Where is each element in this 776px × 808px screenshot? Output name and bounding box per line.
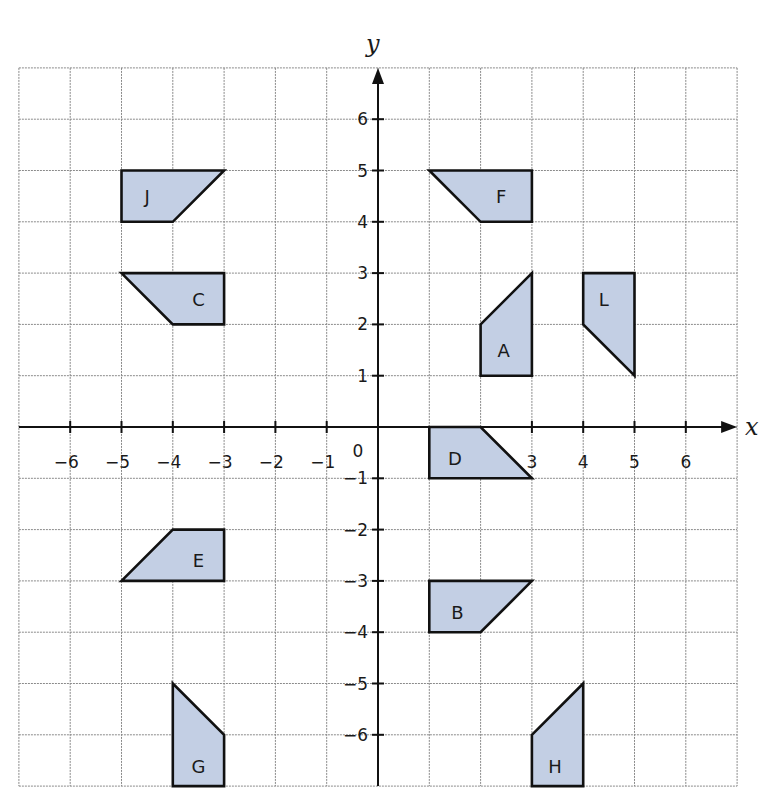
x-tick-label: −1	[310, 452, 335, 472]
x-tick-label: 6	[680, 452, 691, 472]
shape-label-c: C	[192, 289, 205, 310]
origin-label: 0	[353, 441, 364, 461]
x-tick-label: −4	[156, 452, 181, 472]
x-axis-arrow-icon	[721, 421, 737, 433]
y-tick-label: 6	[357, 109, 368, 129]
y-axis-label: y	[365, 30, 380, 58]
y-tick-label: −1	[343, 468, 368, 488]
shape-label-e: E	[193, 550, 204, 571]
shape-label-d: D	[448, 448, 462, 469]
shape-j	[122, 171, 225, 222]
shape-label-l: L	[599, 289, 609, 310]
x-axis-label: x	[745, 413, 759, 441]
y-tick-label: −3	[343, 571, 368, 591]
coordinate-grid: JCFALDEBGH xy−6−5−4−3−2−13456654321−1−2−…	[0, 0, 776, 808]
x-tick-label: −5	[105, 452, 130, 472]
y-tick-label: −4	[343, 622, 368, 642]
y-tick-label: 2	[357, 314, 368, 334]
y-tick-label: −2	[343, 520, 368, 540]
x-tick-label: 5	[629, 452, 640, 472]
x-tick-label: −3	[208, 452, 233, 472]
y-tick-label: 1	[357, 366, 368, 386]
y-tick-label: 4	[357, 212, 368, 232]
shape-label-g: G	[191, 756, 205, 777]
shape-b	[429, 581, 532, 632]
shape-label-a: A	[498, 340, 511, 361]
x-tick-label: −2	[259, 452, 284, 472]
shape-l	[583, 273, 634, 376]
x-tick-label: −6	[54, 452, 79, 472]
shape-label-j: J	[143, 186, 149, 207]
tick-labels: xy−6−5−4−3−2−13456654321−1−2−3−4−5−60	[54, 30, 759, 745]
shape-label-f: F	[496, 186, 506, 207]
shape-label-h: H	[548, 756, 562, 777]
shape-label-b: B	[451, 602, 463, 623]
shape-c	[122, 273, 225, 324]
y-tick-label: 3	[357, 263, 368, 283]
y-tick-label: −6	[343, 725, 368, 745]
shape-d	[429, 427, 532, 478]
y-axis-arrow-icon	[372, 68, 384, 84]
shape-e	[122, 530, 225, 581]
shape-f	[429, 171, 532, 222]
y-tick-label: 5	[357, 161, 368, 181]
y-tick-label: −5	[343, 674, 368, 694]
x-tick-label: 4	[578, 452, 589, 472]
x-tick-label: 3	[526, 452, 537, 472]
